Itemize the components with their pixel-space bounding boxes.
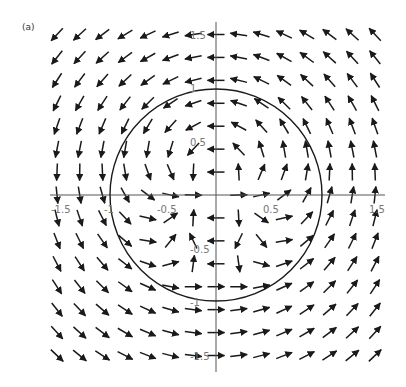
field-arrow	[98, 234, 108, 248]
field-arrow	[53, 256, 61, 271]
y-tick-label: -1.5	[190, 351, 210, 362]
field-arrow	[256, 234, 267, 247]
field-arrow	[276, 261, 292, 266]
field-arrow	[140, 53, 155, 61]
field-arrow	[52, 51, 63, 64]
field-arrow	[96, 304, 109, 315]
field-arrow	[163, 77, 178, 84]
field-arrow	[97, 257, 108, 270]
field-arrow	[230, 78, 247, 82]
field-arrow	[97, 74, 108, 87]
field-arrow	[281, 164, 287, 180]
field-arrow	[348, 257, 357, 271]
field-arrow	[347, 280, 358, 293]
field-arrow	[346, 29, 359, 40]
field-arrow	[323, 52, 336, 63]
field-arrow	[276, 352, 292, 358]
field-arrow	[77, 210, 82, 226]
field-arrow	[140, 283, 155, 290]
field-arrow	[121, 119, 128, 134]
field-arrow	[305, 164, 308, 181]
field-arrow	[253, 262, 269, 266]
field-arrow	[258, 164, 265, 180]
field-arrow	[165, 234, 176, 247]
field-arrow	[52, 303, 63, 316]
field-arrow	[276, 31, 291, 38]
field-arrow	[118, 52, 132, 62]
y-tick-label: 0.5	[190, 137, 206, 148]
field-arrow	[75, 74, 85, 88]
field-arrow	[371, 256, 379, 271]
field-arrow	[185, 309, 202, 311]
field-arrow	[192, 255, 194, 272]
field-arrow	[118, 282, 132, 292]
field-arrow	[276, 329, 292, 336]
field-arrow	[350, 210, 355, 226]
field-arrow	[324, 281, 336, 293]
field-arrow	[300, 30, 314, 39]
field-arrow	[119, 75, 131, 87]
field-arrow	[74, 280, 85, 293]
field-arrow	[276, 216, 293, 220]
field-arrow	[57, 164, 58, 181]
field-arrow	[96, 29, 110, 39]
field-arrow	[118, 328, 133, 337]
field-arrow	[230, 354, 247, 356]
field-arrow	[283, 141, 286, 158]
field-arrow	[185, 56, 202, 59]
field-arrow	[230, 33, 247, 36]
field-arrow	[76, 233, 84, 248]
field-arrow	[349, 118, 355, 134]
field-arrow	[162, 262, 178, 266]
field-arrow	[277, 53, 292, 61]
field-arrow	[276, 240, 293, 243]
field-arrow	[77, 118, 83, 134]
field-arrow	[52, 73, 61, 87]
vector-field-plot: -1.5-1-0.50.51.51.510.5-0.5-1-1.5	[0, 0, 406, 387]
field-arrow	[54, 233, 60, 249]
field-arrow	[102, 164, 103, 181]
field-arrow	[369, 326, 381, 339]
x-tick-label: 0.5	[263, 204, 279, 215]
field-arrow	[300, 52, 314, 62]
field-arrow	[140, 329, 156, 336]
field-arrow	[235, 233, 242, 248]
field-arrow	[329, 164, 330, 181]
field-arrow	[346, 303, 358, 315]
field-arrow	[370, 51, 381, 64]
field-arrow	[238, 255, 240, 272]
field-arrow	[193, 209, 194, 226]
field-arrow	[324, 257, 335, 270]
field-arrow	[119, 212, 131, 224]
field-arrow	[51, 350, 63, 362]
field-arrow	[276, 283, 291, 290]
field-arrow	[162, 32, 178, 37]
field-arrow	[75, 257, 84, 271]
field-arrow	[233, 143, 245, 155]
field-arrow	[325, 234, 335, 248]
field-arrow	[73, 29, 86, 40]
field-arrow	[253, 54, 269, 60]
field-arrow	[230, 309, 247, 311]
field-arrow	[140, 31, 155, 38]
field-arrow	[142, 97, 154, 109]
field-arrow	[370, 73, 379, 87]
field-arrow	[231, 101, 247, 106]
field-arrow	[276, 306, 291, 313]
field-arrow	[278, 97, 290, 109]
field-arrow	[300, 305, 314, 314]
field-arrow	[96, 327, 110, 337]
field-arrow	[326, 118, 333, 134]
field-arrow	[185, 101, 201, 106]
field-arrow	[74, 51, 86, 63]
field-arrow	[277, 75, 291, 85]
field-arrow	[259, 141, 264, 157]
field-arrow	[73, 327, 86, 338]
field-arrow	[300, 282, 314, 292]
field-arrow	[280, 119, 289, 134]
field-arrow	[351, 141, 354, 158]
field-arrow	[301, 212, 313, 224]
field-arrow	[256, 120, 267, 133]
field-arrow	[118, 30, 132, 39]
field-arrow	[323, 29, 337, 39]
